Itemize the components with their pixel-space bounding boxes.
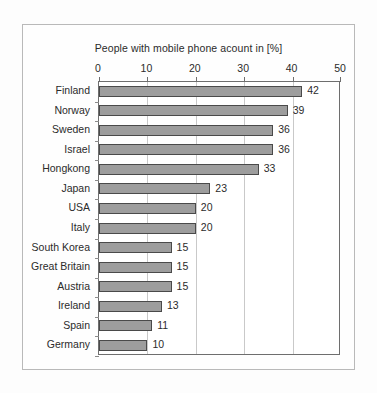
bar bbox=[99, 105, 288, 116]
x-axis-tick-label: 10 bbox=[141, 62, 153, 74]
bar bbox=[99, 164, 259, 175]
bar bbox=[99, 320, 152, 331]
bar-row: 42 bbox=[99, 82, 339, 102]
category-label: Spain bbox=[63, 316, 90, 336]
plot-area: 4239363633232020151515131110 bbox=[98, 81, 340, 355]
bar-row: 10 bbox=[99, 336, 339, 356]
bar-series: 4239363633232020151515131110 bbox=[99, 82, 339, 354]
category-label: Austria bbox=[57, 277, 90, 297]
bar-value-label: 20 bbox=[201, 201, 213, 213]
category-label: Ireland bbox=[58, 296, 90, 316]
bar bbox=[99, 125, 273, 136]
bar-value-label: 13 bbox=[167, 299, 179, 311]
bar-value-label: 23 bbox=[215, 182, 227, 194]
x-axis-tick-label: 30 bbox=[237, 62, 249, 74]
bar-value-label: 15 bbox=[177, 260, 189, 272]
x-axis-tick-label: 0 bbox=[95, 62, 101, 74]
category-label: Germany bbox=[47, 335, 90, 355]
bar-value-label: 33 bbox=[264, 162, 276, 174]
bar bbox=[99, 203, 196, 214]
bar bbox=[99, 86, 302, 97]
x-axis-tick-labels: 01020304050 bbox=[98, 62, 340, 76]
bar-value-label: 20 bbox=[201, 221, 213, 233]
x-axis-tick-label: 20 bbox=[189, 62, 201, 74]
category-label: Finland bbox=[56, 81, 90, 101]
bar bbox=[99, 340, 147, 351]
bar-row: 11 bbox=[99, 317, 339, 337]
bar-row: 13 bbox=[99, 297, 339, 317]
bar-row: 36 bbox=[99, 121, 339, 141]
x-axis-tick-label: 40 bbox=[286, 62, 298, 74]
bar-value-label: 36 bbox=[278, 143, 290, 155]
chart-screenshot: People with mobile phone acount in [%] 0… bbox=[0, 0, 377, 393]
bar-row: 36 bbox=[99, 141, 339, 161]
bar bbox=[99, 301, 162, 312]
bar-row: 20 bbox=[99, 199, 339, 219]
bar-row: 15 bbox=[99, 258, 339, 278]
bar-row: 15 bbox=[99, 278, 339, 298]
bar-value-label: 42 bbox=[307, 84, 319, 96]
y-axis-tick-mark bbox=[95, 356, 99, 357]
bar-value-label: 15 bbox=[177, 280, 189, 292]
category-label: Japan bbox=[61, 179, 90, 199]
category-label: Sweden bbox=[52, 120, 90, 140]
bar-row: 23 bbox=[99, 180, 339, 200]
bar bbox=[99, 144, 273, 155]
bar-value-label: 10 bbox=[152, 338, 164, 350]
category-label: South Korea bbox=[32, 238, 90, 258]
bar-value-label: 15 bbox=[177, 241, 189, 253]
category-label: Israel bbox=[64, 140, 90, 160]
category-label: Norway bbox=[54, 101, 90, 121]
bar bbox=[99, 262, 172, 273]
bar-value-label: 39 bbox=[293, 104, 305, 116]
category-label: Great Britain bbox=[31, 257, 90, 277]
category-label: USA bbox=[68, 198, 90, 218]
bar-value-label: 36 bbox=[278, 123, 290, 135]
bar bbox=[99, 223, 196, 234]
y-axis-category-labels: FinlandNorwaySwedenIsraelHongkongJapanUS… bbox=[22, 81, 94, 355]
chart-title: People with mobile phone acount in [%] bbox=[0, 42, 377, 54]
bar bbox=[99, 242, 172, 253]
bar-value-label: 11 bbox=[157, 319, 168, 331]
category-label: Italy bbox=[71, 218, 90, 238]
bar-row: 33 bbox=[99, 160, 339, 180]
bar bbox=[99, 183, 210, 194]
bar-row: 20 bbox=[99, 219, 339, 239]
x-axis-tick-label: 50 bbox=[334, 62, 346, 74]
bar-row: 15 bbox=[99, 239, 339, 259]
bar-row: 39 bbox=[99, 102, 339, 122]
category-label: Hongkong bbox=[42, 159, 90, 179]
bar bbox=[99, 281, 172, 292]
